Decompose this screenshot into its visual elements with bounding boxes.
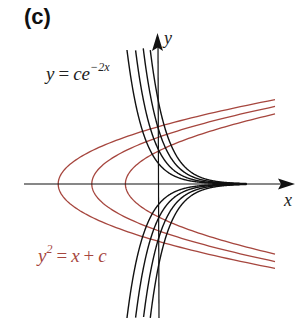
exponential-equation-label: y=ce−2x bbox=[46, 60, 109, 85]
x-axis bbox=[24, 179, 295, 190]
orthogonal-trajectories-plot bbox=[0, 0, 308, 324]
parabola-equation-label: y2=x+c bbox=[38, 242, 107, 267]
y-axis-label: y bbox=[164, 28, 172, 49]
x-axis-label: x bbox=[284, 190, 292, 211]
exponential-family bbox=[127, 48, 246, 318]
